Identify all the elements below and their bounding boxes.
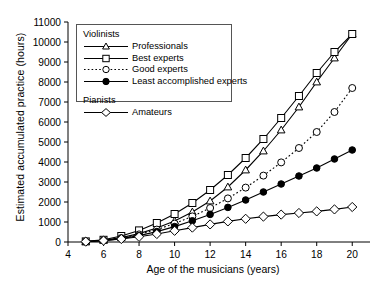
data-point	[242, 155, 249, 162]
legend-label-professionals: Professionals	[132, 41, 188, 52]
data-point	[224, 195, 231, 202]
data-point	[331, 49, 338, 56]
data-point	[260, 172, 267, 179]
data-point	[207, 211, 214, 218]
y-tick-label: 10000	[33, 37, 62, 48]
legend-group-heading-violinists: Violinists	[83, 29, 231, 40]
legend-entry-best-experts: Best experts	[83, 53, 231, 65]
data-point	[188, 223, 197, 232]
x-tick-label: 18	[311, 249, 323, 260]
legend-entry-professionals: Professionals	[83, 41, 231, 53]
circle-open-dotted-icon	[83, 64, 129, 75]
legend-label-good-experts: Good experts	[132, 64, 188, 75]
legend-entry-good-experts: Good experts	[83, 64, 231, 76]
y-tick-label: 6000	[38, 117, 61, 128]
x-tick-label: 12	[204, 249, 216, 260]
data-point	[225, 204, 232, 211]
y-tick-label: 4000	[38, 157, 61, 168]
data-point	[331, 109, 338, 116]
series-amateurs	[81, 202, 357, 246]
legend-label-amateurs: Amateurs	[132, 107, 172, 118]
data-point	[260, 189, 267, 196]
data-point	[349, 31, 356, 38]
y-tick-label: 9000	[38, 57, 61, 68]
legend-label-best-experts: Best experts	[132, 53, 184, 64]
data-point	[313, 70, 320, 77]
x-tick-label: 14	[240, 249, 252, 260]
data-point	[207, 205, 214, 212]
data-point	[224, 172, 231, 179]
y-tick-label: 1000	[38, 217, 61, 228]
triangle-open-icon	[83, 41, 129, 52]
square-open-icon	[83, 53, 129, 64]
x-tick-label: 20	[347, 249, 359, 260]
data-point	[296, 173, 303, 180]
x-tick-label: 6	[101, 249, 107, 260]
data-point	[278, 181, 285, 188]
data-point	[313, 165, 320, 172]
data-point	[348, 202, 357, 211]
legend-entry-amateurs: Amateurs	[83, 107, 231, 119]
series-line	[86, 150, 352, 242]
data-point	[295, 93, 302, 100]
data-point	[331, 156, 338, 163]
data-point	[206, 220, 215, 229]
circle-filled-icon	[83, 76, 129, 87]
data-point	[242, 184, 249, 191]
x-tick-label: 4	[65, 249, 71, 260]
diamond-open-icon	[83, 107, 129, 118]
data-point	[330, 205, 339, 214]
x-tick-label: 8	[136, 249, 142, 260]
data-point	[349, 147, 356, 154]
legend-spacer	[77, 87, 231, 91]
chart-legend: Violinists Professionals Best experts Go…	[76, 24, 232, 102]
y-tick-label: 5000	[38, 137, 61, 148]
y-tick-label: 3000	[38, 177, 61, 188]
legend-group-heading-pianists: Pianists	[83, 95, 231, 106]
series-least-accomplished-experts	[82, 147, 355, 245]
data-point	[278, 115, 285, 122]
data-point	[259, 212, 268, 221]
legend-entry-least-accomplished-experts: Least accomplished experts	[83, 76, 231, 88]
data-point	[278, 159, 285, 166]
data-point	[153, 220, 160, 227]
data-point	[223, 217, 232, 226]
legend-label-least-accomplished-experts: Least accomplished experts	[132, 76, 247, 87]
y-tick-label: 2000	[38, 197, 61, 208]
data-point	[294, 208, 303, 217]
data-point	[189, 200, 196, 207]
x-tick-label: 10	[169, 249, 181, 260]
data-point	[295, 145, 302, 152]
y-tick-label: 8000	[38, 77, 61, 88]
data-point	[312, 207, 321, 216]
data-point	[171, 211, 178, 218]
data-point	[242, 197, 249, 204]
data-point	[207, 187, 214, 194]
chart-figure: Estimated accumulated practice (hours) A…	[0, 0, 382, 283]
data-point	[241, 214, 250, 223]
data-point	[206, 197, 214, 204]
x-tick-label: 16	[276, 249, 288, 260]
data-point	[349, 85, 356, 92]
data-point	[260, 136, 267, 143]
data-point	[313, 129, 320, 136]
y-tick-label: 7000	[38, 97, 61, 108]
y-tick-label: 11000	[33, 17, 61, 28]
y-tick-label: 0	[55, 237, 61, 248]
data-point	[277, 210, 286, 219]
